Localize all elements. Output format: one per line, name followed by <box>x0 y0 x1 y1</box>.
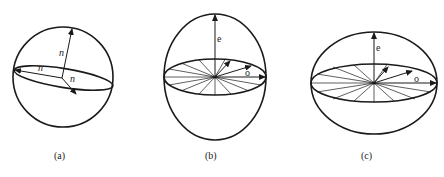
caption-b: (b) <box>205 150 217 162</box>
panel-c-oblate-ellipsoid: e o (c) <box>311 32 437 162</box>
radius-label-left: n <box>38 62 43 73</box>
radius-label-front: n <box>70 73 75 84</box>
e-label: e <box>217 33 222 44</box>
caption-c: (c) <box>361 150 372 162</box>
radius-label-up: n <box>59 47 64 58</box>
sphere-equator <box>13 61 115 95</box>
e-label: e <box>376 42 381 53</box>
o-label: o <box>245 67 250 78</box>
panel-a-sphere: n n n (a) <box>13 27 115 162</box>
panel-b-prolate-ellipsoid: e o (b) <box>164 14 266 162</box>
caption-a: (a) <box>54 150 65 162</box>
refractive-index-ellipsoid-figure: n n n (a) e o (b) <box>0 0 444 177</box>
o-label: o <box>414 73 419 84</box>
center-point <box>372 81 375 84</box>
center-point <box>213 75 216 78</box>
